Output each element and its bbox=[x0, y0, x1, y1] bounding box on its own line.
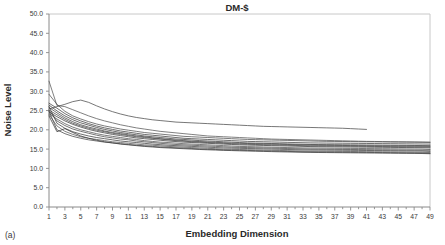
x-tick-label: 13 bbox=[140, 213, 148, 220]
x-tick-label: 19 bbox=[188, 213, 196, 220]
x-tick-label: 31 bbox=[283, 213, 291, 220]
x-tick-label: 7 bbox=[95, 213, 99, 220]
y-tick-label: 10.0 bbox=[30, 165, 43, 172]
x-tick-label: 3 bbox=[63, 213, 67, 220]
axis-tick-labels: 0.05.010.015.020.025.030.035.040.045.050… bbox=[30, 10, 434, 220]
x-tick-label: 11 bbox=[125, 213, 132, 220]
x-tick-label: 9 bbox=[111, 213, 115, 220]
y-tick-label: 0.0 bbox=[34, 203, 44, 210]
series-line bbox=[49, 100, 367, 129]
y-tick-label: 25.0 bbox=[30, 107, 43, 114]
x-axis-title: Embedding Dimension bbox=[186, 228, 289, 239]
y-tick-label: 50.0 bbox=[30, 10, 43, 17]
x-tick-label: 49 bbox=[426, 213, 434, 220]
y-axis-title: Noise Level bbox=[2, 84, 13, 137]
x-tick-label: 25 bbox=[236, 213, 244, 220]
x-tick-label: 17 bbox=[172, 213, 180, 220]
x-tick-label: 35 bbox=[315, 213, 323, 220]
x-tick-label: 41 bbox=[363, 213, 371, 220]
plot-frame bbox=[49, 14, 430, 207]
x-tick-label: 21 bbox=[204, 213, 212, 220]
x-tick-label: 45 bbox=[394, 213, 402, 220]
axis-ticks bbox=[46, 14, 430, 211]
y-tick-label: 30.0 bbox=[30, 88, 43, 95]
x-tick-label: 23 bbox=[220, 213, 228, 220]
x-tick-label: 37 bbox=[331, 213, 339, 220]
x-tick-label: 43 bbox=[379, 213, 387, 220]
x-tick-label: 15 bbox=[156, 213, 164, 220]
y-tick-label: 40.0 bbox=[30, 49, 43, 56]
y-tick-label: 5.0 bbox=[34, 184, 44, 191]
x-tick-label: 29 bbox=[267, 213, 275, 220]
chart-figure: 0.05.010.015.020.025.030.035.040.045.050… bbox=[0, 0, 445, 245]
panel-label: (a) bbox=[5, 230, 16, 240]
x-tick-label: 1 bbox=[47, 213, 51, 220]
x-tick-label: 27 bbox=[252, 213, 260, 220]
line-chart: 0.05.010.015.020.025.030.035.040.045.050… bbox=[0, 0, 445, 245]
y-tick-label: 15.0 bbox=[30, 146, 43, 153]
y-tick-label: 35.0 bbox=[30, 68, 43, 75]
y-tick-label: 20.0 bbox=[30, 126, 43, 133]
x-tick-label: 39 bbox=[347, 213, 355, 220]
x-tick-label: 33 bbox=[299, 213, 307, 220]
x-tick-label: 47 bbox=[410, 213, 418, 220]
y-tick-label: 45.0 bbox=[30, 30, 43, 37]
series-lines bbox=[49, 81, 430, 154]
chart-title: DM-$ bbox=[225, 2, 249, 13]
x-tick-label: 5 bbox=[79, 213, 83, 220]
